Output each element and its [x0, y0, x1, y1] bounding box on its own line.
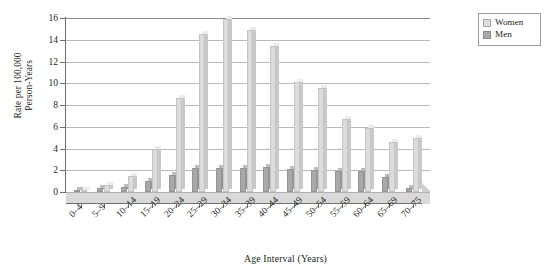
legend-swatch-women-icon: [483, 19, 491, 27]
x-axis-title: Age Interval (Years): [0, 253, 549, 264]
x-axis-tick-label: 45–49: [280, 195, 304, 219]
legend-item-women[interactable]: Women: [483, 17, 536, 29]
legend: Women Men: [478, 13, 541, 46]
x-axis-tick-label: 40–44: [256, 195, 280, 219]
x-axis-tick-label: 15–19: [138, 195, 162, 219]
bar-chart: Rate per 100,000 Person-Years 0246810121…: [0, 0, 549, 279]
x-axis-tick-label: 60–64: [351, 195, 375, 219]
x-axis-tick-label: 5–9: [90, 202, 107, 219]
legend-item-men[interactable]: Men: [483, 29, 536, 41]
legend-swatch-men-icon: [483, 31, 491, 39]
x-axis-tick-label: 70–75: [399, 195, 423, 219]
legend-label-men: Men: [495, 30, 512, 39]
x-axis-tick-label: 0–4: [67, 202, 84, 219]
x-axis-tick-labels: 0–45–910–1415–1920–2425–2930–3435–3940–4…: [0, 0, 549, 279]
x-axis-tick-label: 55–59: [328, 195, 352, 219]
x-axis-tick-label: 65–69: [375, 195, 399, 219]
x-axis-tick-label: 50–54: [304, 195, 328, 219]
x-axis-tick-label: 10–14: [114, 195, 138, 219]
x-axis-tick-label: 20–24: [162, 195, 186, 219]
x-axis-tick-label: 25–29: [185, 195, 209, 219]
x-axis-title-text: Age Interval (Years): [244, 253, 327, 264]
legend-label-women: Women: [495, 18, 523, 27]
x-axis-tick-label: 35–39: [233, 195, 257, 219]
x-axis-tick-label: 30–34: [209, 195, 233, 219]
